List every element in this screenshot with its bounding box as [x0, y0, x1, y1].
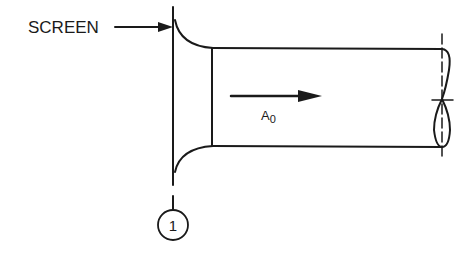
flow-area-subscript: 0 [270, 113, 276, 125]
bellmouth-top-curve [175, 20, 213, 48]
duct-top-wall [212, 48, 442, 49]
station-number: 1 [169, 217, 177, 234]
screen-label: SCREEN [28, 18, 99, 37]
flow-area-label: A0 [261, 108, 276, 125]
flow-area-symbol: A [261, 108, 270, 123]
inlet-duct-diagram: SCREEN A0 1 [0, 0, 471, 257]
duct-bottom-wall [212, 146, 442, 147]
duct-break-symbol [432, 34, 453, 160]
screen-pointer-arrow [115, 22, 173, 32]
flow-arrow [231, 90, 322, 102]
bellmouth-bottom-curve [175, 146, 213, 172]
